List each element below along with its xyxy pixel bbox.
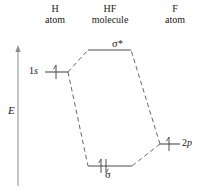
column-header-h-atom-line1: H — [32, 4, 78, 15]
mo-diagram-figure: H atom HF molecule F atom E 1s σ* σ 2p — [0, 0, 205, 191]
correlation-2p-to-sigma — [132, 144, 160, 166]
column-header-hf-molecule: HF molecule — [78, 4, 142, 25]
level-label-sigma-star: σ* — [112, 38, 123, 49]
level-label-sigma: σ — [105, 169, 111, 180]
column-header-hf-molecule-line2: molecule — [78, 15, 142, 26]
level-label-h-1s: 1s — [29, 66, 38, 77]
level-label-f-2p: 2p — [182, 138, 192, 149]
column-header-f-atom-line1: F — [152, 4, 198, 15]
column-header-h-atom-line2: atom — [32, 15, 78, 26]
level-label-f-2p-orbital: p — [187, 137, 192, 148]
energy-axis — [15, 45, 20, 186]
level-label-h-1s-orbital: s — [34, 65, 38, 76]
column-header-f-atom-line2: atom — [152, 15, 198, 26]
column-header-f-atom: F atom — [152, 4, 198, 25]
column-header-hf-molecule-line1: HF — [78, 4, 142, 15]
correlation-1s-to-sigma — [68, 72, 88, 166]
correlation-lines — [68, 50, 160, 166]
column-header-h-atom: H atom — [32, 4, 78, 25]
correlation-2p-to-sigma-star — [131, 50, 160, 144]
energy-axis-label: E — [8, 105, 15, 117]
mo-diagram-canvas — [0, 0, 205, 191]
correlation-1s-to-sigma-star — [68, 50, 88, 72]
